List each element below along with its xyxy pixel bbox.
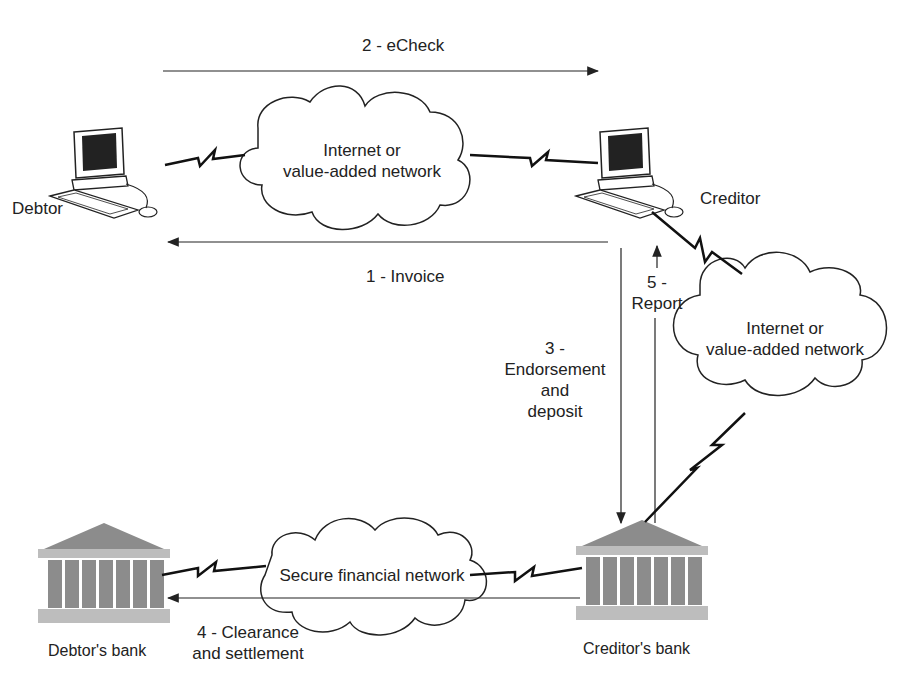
step-4-label: 4 - Clearance and settlement	[178, 622, 318, 664]
debtor-computer-icon	[50, 128, 157, 218]
right-cloud-label: Internet or value-added network	[690, 318, 880, 360]
creditor-label: Creditor	[700, 188, 760, 209]
step-1-label: 1 - Invoice	[366, 266, 444, 287]
debtors-bank-label: Debtor's bank	[48, 640, 146, 661]
step-5-label: 5 - Report	[618, 272, 696, 314]
creditors-bank-icon	[576, 520, 708, 620]
debtor-label: Debtor	[12, 198, 63, 219]
top-cloud-label: Internet or value-added network	[272, 140, 452, 182]
debtors-bank-icon	[38, 523, 170, 623]
creditor-computer-icon	[576, 128, 683, 218]
step-2-label: 2 - eCheck	[362, 35, 444, 56]
step-3-label: 3 - Endorsement and deposit	[490, 338, 620, 422]
creditors-bank-label: Creditor's bank	[583, 638, 690, 659]
bottom-cloud-label: Secure financial network	[262, 565, 482, 586]
